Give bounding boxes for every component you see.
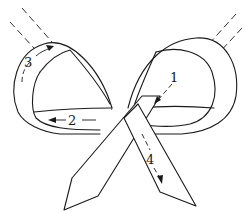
step-3-label: 3 bbox=[24, 55, 32, 70]
step-2-label: 2 bbox=[68, 113, 76, 128]
bow-diagram: 1 2 3 4 bbox=[0, 0, 244, 213]
step-1-label: 1 bbox=[170, 70, 178, 85]
step-4-label: 4 bbox=[146, 152, 154, 167]
